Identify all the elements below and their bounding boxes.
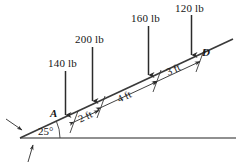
point-label-d: D — [202, 47, 210, 58]
ground-surface-hatch-arrow — [28, 145, 33, 162]
incline-surface-hatch-arrow — [6, 119, 22, 130]
force-label-140lb: 140 lb — [48, 58, 77, 69]
angle-label-25deg: 25° — [38, 126, 53, 137]
diagram-canvas — [0, 0, 242, 164]
force-label-200lb: 200 lb — [75, 34, 104, 45]
angle-arc-group — [56, 121, 60, 138]
angle-arc-25deg — [56, 121, 60, 138]
statics-diagram-figure: 140 lb 200 lb 160 lb 120 lb A D 25° 2 ft… — [0, 0, 242, 164]
force-label-120lb: 120 lb — [175, 3, 204, 14]
station-tick-at-160lb — [153, 70, 161, 92]
point-label-a: A — [50, 108, 57, 119]
force-label-160lb: 160 lb — [131, 13, 160, 24]
support-hatch-group — [6, 119, 33, 162]
station-tick-at-200lb — [97, 96, 105, 118]
